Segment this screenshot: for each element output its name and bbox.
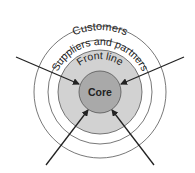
- core-label: Core: [88, 86, 112, 98]
- concentric-diagram: Customers Suppliers and partners Front l…: [0, 0, 195, 173]
